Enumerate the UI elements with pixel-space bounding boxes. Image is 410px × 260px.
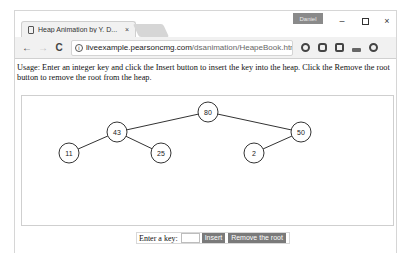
usage-text: Usage: Enter an integer key and click th… — [17, 63, 395, 83]
heap-node: 43 — [107, 122, 127, 142]
insert-button[interactable]: Insert — [202, 233, 226, 243]
heap-edge — [78, 136, 108, 149]
heap-tree: 80435011252 — [22, 96, 395, 227]
circle-icon[interactable] — [369, 43, 378, 52]
url-host: liveexample.pearsoncmg.com — [86, 43, 192, 52]
title-bar: Heap Animation by Y. D... × Daniel – × — [15, 11, 396, 34]
tab-heap-animation[interactable]: Heap Animation by Y. D... × — [21, 21, 136, 37]
key-label: Enter a key: — [139, 234, 178, 243]
info-icon[interactable]: i — [75, 44, 83, 52]
heap-edge — [126, 136, 152, 148]
page-icon — [28, 26, 34, 34]
heap-canvas: 80435011252 — [21, 95, 394, 226]
svg-text:43: 43 — [113, 129, 121, 136]
key-input[interactable] — [181, 233, 200, 243]
svg-text:25: 25 — [157, 150, 165, 157]
square-icon[interactable] — [335, 43, 344, 52]
svg-text:2: 2 — [252, 150, 256, 157]
page-content: Usage: Enter an integer key and click th… — [15, 60, 396, 253]
heap-node: 11 — [59, 143, 79, 163]
close-window-button[interactable]: × — [373, 11, 401, 31]
svg-text:80: 80 — [204, 109, 212, 116]
tab-close-icon[interactable]: × — [125, 26, 129, 33]
heap-node: 50 — [291, 122, 311, 142]
heap-edge — [218, 114, 291, 130]
reload-button[interactable]: C — [51, 40, 67, 56]
heap-node: 25 — [151, 143, 171, 163]
browser-toolbar: ← → C i liveexample.pearsoncmg.com/dsani… — [15, 37, 396, 59]
car-icon[interactable] — [352, 48, 361, 52]
opera-icon[interactable] — [301, 43, 310, 52]
profile-badge[interactable]: Daniel — [293, 13, 323, 24]
browser-window: Heap Animation by Y. D... × Daniel – × ←… — [14, 10, 397, 253]
heap-edge — [127, 114, 198, 130]
heap-node: 2 — [244, 143, 264, 163]
url-path: /dsanimation/HeapeBook.html — [192, 43, 293, 52]
forward-button[interactable]: → — [35, 40, 51, 56]
heap-controls: Enter a key: Insert Remove the root — [136, 232, 290, 244]
svg-text:50: 50 — [297, 129, 305, 136]
maximize-icon — [362, 18, 369, 25]
new-tab-button[interactable] — [133, 24, 169, 37]
svg-text:11: 11 — [65, 150, 72, 157]
heap-node: 80 — [198, 102, 218, 122]
heap-edge — [263, 136, 292, 149]
remove-root-button[interactable]: Remove the root — [228, 233, 286, 243]
address-bar[interactable]: i liveexample.pearsoncmg.com/dsanimation… — [71, 40, 293, 56]
shield-icon[interactable] — [318, 43, 327, 52]
back-button[interactable]: ← — [19, 40, 35, 56]
tab-title: Heap Animation by Y. D... — [38, 26, 125, 33]
